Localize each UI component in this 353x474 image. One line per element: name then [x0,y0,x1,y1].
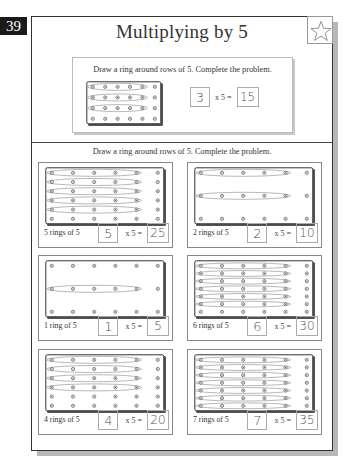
rings-label: 4 rings of 5 [44,415,80,424]
factor-box[interactable]: 1 [98,316,118,336]
product-box[interactable]: 25 [147,223,169,243]
product-box[interactable]: 5 [147,316,169,336]
page-number-tab: 39 [0,17,27,35]
product-box[interactable]: 35 [296,410,318,430]
rings-label: 5 rings of 5 [44,228,80,237]
rings-label: 6 rings of 5 [193,321,229,330]
product-box[interactable]: 30 [296,316,318,336]
factor-box[interactable]: 2 [247,223,267,243]
times-five-label: x 5 = [125,416,142,425]
rings-label: 7 rings of 5 [193,415,229,424]
problem-panel-5: 4 rings of 5 4 x 5 = 20 [38,349,173,435]
times-five-label: x 5 = [274,229,291,238]
example-factor-box[interactable]: 3 [190,87,210,107]
times-five-label: x 5 = [125,229,142,238]
factor-box[interactable]: 5 [98,223,118,243]
times-five-label: x 5 = [274,322,291,331]
times-five-label: x 5 = [215,93,232,102]
problem-panel-2: 2 rings of 5 2 x 5 = 10 [187,162,322,248]
product-box[interactable]: 20 [147,410,169,430]
times-five-label: x 5 = [125,322,142,331]
pegboard [45,167,167,227]
pegboard [45,260,167,320]
factor-box[interactable]: 7 [247,410,267,430]
problem-panel-6: 7 rings of 5 7 x 5 = 35 [187,349,322,435]
rings-label: 2 rings of 5 [193,228,229,237]
problem-panel-3: 1 ring of 5 1 x 5 = 5 [38,255,173,341]
rings-label: 1 ring of 5 [44,321,77,330]
pegboard [194,354,316,414]
section-instruction: Draw a ring around rows of 5. Complete t… [32,147,332,156]
product-box[interactable]: 10 [296,223,318,243]
factor-box[interactable]: 4 [98,410,118,430]
example-equation: 3 x 5 = 15 [190,87,259,107]
problem-panel-1: 5 rings of 5 5 x 5 = 25 [38,162,173,248]
pegboard [45,354,167,414]
section-divider [32,142,332,143]
star-outline-icon [310,20,332,42]
example-product-box[interactable]: 15 [237,87,259,107]
star-badge [307,16,333,44]
example-pegboard [86,81,164,127]
factor-box[interactable]: 6 [247,316,267,336]
pegboard [194,167,316,227]
page-title: Multiplying by 5 [32,21,332,43]
example-panel: Draw a ring around rows of 5. Complete t… [72,57,293,133]
problem-panel-4: 6 rings of 5 6 x 5 = 30 [187,255,322,341]
example-instruction: Draw a ring around rows of 5. Complete t… [73,65,292,74]
worksheet-frame: Multiplying by 5 Draw a ring around rows… [31,16,333,451]
pegboard [194,260,316,320]
times-five-label: x 5 = [274,416,291,425]
